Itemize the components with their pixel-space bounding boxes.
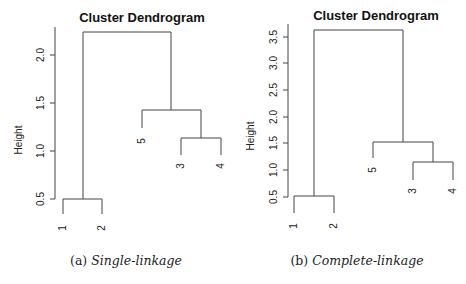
chart-title: Cluster Dendrogram: [79, 10, 205, 25]
merge-5-34: [373, 142, 433, 162]
chart-title: Cluster Dendrogram: [313, 8, 439, 23]
leaf-label: 2: [328, 223, 339, 229]
y-tick-label: 1.5: [35, 96, 46, 110]
leaf-label: 2: [96, 225, 107, 231]
dendrogram-single-linkage: Cluster Dendrogram 0.5 1.0 1.5 2.0 Heigh…: [13, 10, 226, 231]
caption-prefix: (b): [290, 253, 308, 268]
leaf-label: 5: [367, 167, 378, 173]
merge-root: [314, 30, 403, 196]
leaf-label: 4: [215, 163, 226, 169]
caption-text: Single-linkage: [91, 253, 182, 268]
leaf-label: 3: [407, 188, 418, 194]
y-tick-label: 3.5: [268, 30, 279, 44]
merge-5-34: [142, 110, 201, 138]
caption-text: Complete-linkage: [312, 253, 423, 268]
y-tick-label: 2.0: [268, 110, 279, 124]
leaf-label: 1: [57, 225, 68, 231]
y-tick-label: 2.0: [35, 48, 46, 62]
leaf-label: 5: [136, 138, 147, 144]
merge-1-2: [294, 196, 334, 213]
leaf-label: 1: [288, 223, 299, 229]
figure: Cluster Dendrogram 0.5 1.0 1.5 2.0 Heigh…: [0, 0, 466, 284]
y-axis-label: Height: [245, 121, 256, 150]
y-tick-label: 1.0: [35, 144, 46, 158]
merge-3-4: [413, 162, 453, 180]
dendrogram-complete-linkage: Cluster Dendrogram 0.5 1.0 1.5 2.0 2.5 3…: [245, 8, 458, 229]
caption-b: (b) Complete-linkage: [290, 253, 423, 268]
caption-prefix: (a): [70, 253, 87, 268]
y-tick-label: 1.0: [268, 163, 279, 177]
y-axis-label: Height: [13, 125, 24, 154]
caption-a: (a) Single-linkage: [70, 253, 182, 268]
y-tick-label: 3.0: [268, 56, 279, 70]
y-tick-label: 2.5: [268, 83, 279, 97]
merge-1-2: [63, 199, 102, 214]
leaf-label: 4: [447, 188, 458, 194]
leaf-label: 3: [175, 163, 186, 169]
y-tick-label: 0.5: [35, 192, 46, 206]
merge-root: [83, 32, 171, 199]
y-tick-label: 1.5: [268, 136, 279, 150]
merge-3-4: [181, 138, 221, 155]
y-tick-label: 0.5: [268, 190, 279, 204]
